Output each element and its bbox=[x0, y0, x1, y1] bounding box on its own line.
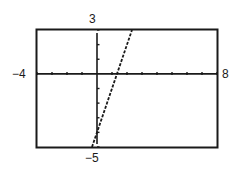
axes bbox=[37, 30, 217, 147]
graph-window bbox=[0, 0, 231, 174]
